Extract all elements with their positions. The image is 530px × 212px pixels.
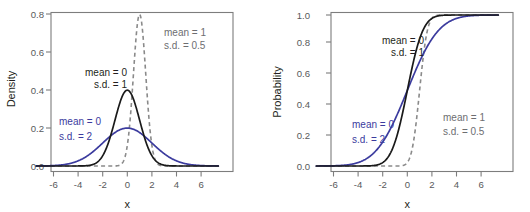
annotation-mean0-sd2: mean = 0 s.d. = 2 (59, 116, 101, 142)
x-tick-label-4: 2 (429, 179, 434, 190)
y-tick-label-4: 0.8 (31, 9, 44, 20)
y-tick-label-2: 0.4 (297, 99, 311, 110)
annotation-mean0-sd1: mean = 0 s.d. = 1 (85, 67, 127, 90)
x-axis-title-density: x (125, 198, 131, 210)
panel-density: Density 0.0 0.2 0.4 0.6 0.8 -6 (0, 0, 265, 212)
y-axis-title-density: Density (5, 70, 17, 107)
annotation-line1: mean = 1 (164, 27, 206, 38)
annotation-line1: mean = 1 (443, 112, 485, 123)
annotation-mean1-sd05: mean = 1 s.d. = 0.5 (164, 27, 206, 51)
annotation-line2: s.d. = 0.5 (443, 126, 485, 137)
annotation-line2: s.d. = 0.5 (164, 40, 206, 51)
y-tick-label-5: 1.0 (297, 10, 310, 21)
annotation-line1: mean = 0 (382, 35, 424, 46)
annotation-line2: s.d. = 2 (352, 134, 386, 145)
annotation-line2: s.d. = 2 (59, 131, 93, 142)
y-tick-label-4: 0.8 (297, 37, 310, 48)
y-tick-label-1: 0.2 (31, 123, 44, 134)
annotation-line2: s.d. = 1 (94, 79, 128, 90)
y-tick-label-3: 0.6 (297, 68, 310, 79)
x-tick-label-5: 4 (174, 179, 180, 190)
probability-svg: Probability 0.0 0.2 0.4 0.6 0.8 1.0 -6 -… (265, 0, 530, 212)
density-svg: Density 0.0 0.2 0.4 0.6 0.8 -6 (0, 0, 265, 212)
y-tick-label-0: 0.0 (297, 161, 310, 172)
figure-normal-distributions: Density 0.0 0.2 0.4 0.6 0.8 -6 (0, 0, 530, 212)
annotation-line1: mean = 0 (59, 116, 101, 127)
x-tick-label-6: 6 (198, 179, 203, 190)
x-tick-label-4: 2 (149, 179, 154, 190)
annotation-mean1-sd05: mean = 1 s.d. = 0.5 (443, 112, 485, 137)
annotation-mean0-sd1: mean = 0 s.d. = 1 (382, 35, 424, 58)
annotation-line1: mean = 0 (85, 67, 127, 78)
y-tick-label-2: 0.4 (31, 85, 45, 96)
panel-probability: Probability 0.0 0.2 0.4 0.6 0.8 1.0 -6 -… (265, 0, 530, 212)
x-tick-label-2: -2 (378, 179, 387, 190)
annotation-line2: s.d. = 1 (391, 47, 425, 58)
x-tick-label-3: 0 (125, 179, 130, 190)
annotation-line1: mean = 0 (352, 119, 394, 130)
x-tick-label-5: 4 (454, 179, 460, 190)
x-axis-title-probability: x (405, 198, 411, 210)
x-tick-label-1: -4 (354, 179, 363, 190)
x-tick-label-1: -4 (74, 179, 83, 190)
x-tick-label-0: -6 (329, 179, 338, 190)
x-tick-label-6: 6 (478, 179, 483, 190)
y-tick-label-3: 0.6 (31, 47, 44, 58)
y-axis-title-probability: Probability (271, 66, 283, 118)
x-tick-label-3: 0 (405, 179, 410, 190)
x-tick-label-2: -2 (98, 179, 107, 190)
x-tick-label-0: -6 (49, 179, 58, 190)
y-tick-label-1: 0.2 (297, 130, 310, 141)
